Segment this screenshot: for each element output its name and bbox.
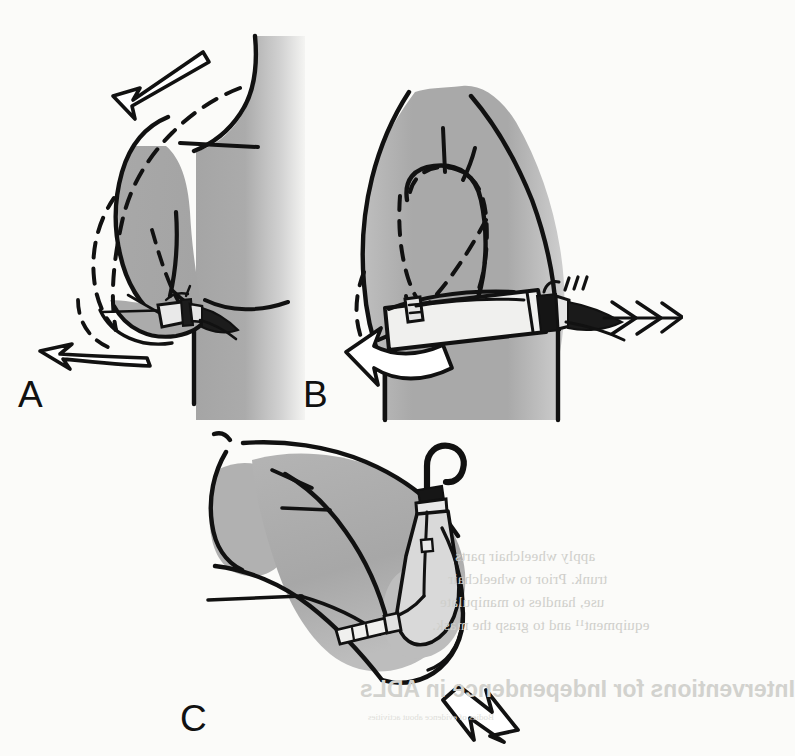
panel-a-dashed-lower xyxy=(78,300,110,348)
panel-b-device-opening-arrows xyxy=(604,302,682,334)
panel-c-forward-reach-arrow xyxy=(443,686,518,742)
panel-a-elbow-extension-arrow xyxy=(40,344,150,369)
panel-label-a: A xyxy=(18,376,43,413)
panel-c-shoulder-top-line xyxy=(214,433,230,440)
panel-c-group xyxy=(208,433,518,742)
panel-b-group xyxy=(346,86,682,420)
panel-a-shoulder-depression-arrow xyxy=(113,52,209,119)
panel-label-c: C xyxy=(180,700,207,737)
panel-a-group xyxy=(40,36,305,420)
panel-c-arm-crease xyxy=(208,596,302,600)
panel-label-b: B xyxy=(303,376,328,413)
panel-b-harness-buckle xyxy=(405,297,423,322)
panel-c-deltoid-line-2 xyxy=(282,508,330,510)
